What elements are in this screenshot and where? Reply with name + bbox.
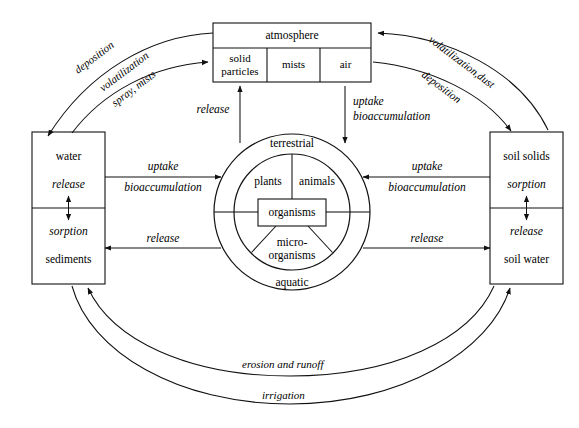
diagram-canvas: atmosphere solid particles mists air wat… (0, 0, 579, 428)
curve-volatilization-to-atmosphere (72, 62, 208, 133)
water-release-label: release (52, 178, 85, 190)
biota-compartment: organisms terrestrial aquatic plants ani… (214, 134, 370, 290)
water-sorption-label: sorption (49, 225, 88, 238)
sediments-label: sediments (46, 253, 93, 265)
flow-release-biota-to-water-label: release (147, 232, 180, 244)
organisms-label: organisms (268, 206, 316, 219)
flow-uptake-soil-label-line2: bioaccumulation (388, 181, 466, 193)
plants-label: plants (254, 175, 282, 188)
flow-uptake-soil-label-line1: uptake (412, 160, 443, 173)
environmental-fate-diagram: atmosphere solid particles mists air wat… (0, 0, 579, 428)
flow-uptake-water-label-line1: uptake (148, 160, 179, 173)
flow-uptake-from-atmosphere-label-line1: uptake (353, 95, 384, 108)
lower-curves: erosion and runoff irrigation (72, 286, 510, 404)
upper-left-curves: deposition volatilization spray, mists (48, 33, 213, 136)
atmosphere-label: atmosphere (265, 29, 318, 42)
flow-uptake-water-label-line2: bioaccumulation (124, 181, 202, 193)
microorganisms-label-line1: micro- (277, 236, 308, 248)
microorganisms-label-line2: organisms (268, 249, 316, 262)
atmosphere-cell-solid-particles-line2: particles (221, 65, 258, 77)
soil-compartment: soil solids sorption release soil water (490, 132, 563, 284)
atmosphere-cell-mists: mists (282, 58, 305, 70)
water-label: water (56, 150, 82, 162)
curve-erosion-and-runoff-label: erosion and runoff (242, 358, 325, 370)
left-horizontal-flows: uptake bioaccumulation release (105, 160, 221, 248)
right-horizontal-flows: uptake bioaccumulation release (363, 160, 490, 248)
animals-label: animals (299, 175, 335, 187)
atmosphere-cell-solid-particles-line1: solid (229, 52, 251, 64)
soil-water-label: soil water (504, 253, 549, 265)
atmosphere-cell-air: air (340, 58, 352, 70)
curve-irrigation-label: irrigation (262, 389, 305, 401)
atmosphere-compartment: atmosphere solid particles mists air (213, 23, 371, 82)
terrestrial-label: terrestrial (270, 137, 314, 149)
water-compartment: water release sorption sediments (32, 132, 105, 284)
flow-release-to-atmosphere-label: release (197, 103, 230, 115)
curve-irrigation (72, 286, 510, 404)
soil-sorption-label: sorption (507, 178, 546, 191)
soil-release-label: release (510, 225, 543, 237)
flow-uptake-from-atmosphere-label-line2: bioaccumulation (353, 110, 431, 122)
aquatic-label: aquatic (275, 276, 308, 289)
center-vertical-flows: release uptake bioaccumulation (197, 86, 431, 143)
soil-solids-label: soil solids (503, 150, 550, 162)
flow-release-biota-to-soil-label: release (411, 232, 444, 244)
